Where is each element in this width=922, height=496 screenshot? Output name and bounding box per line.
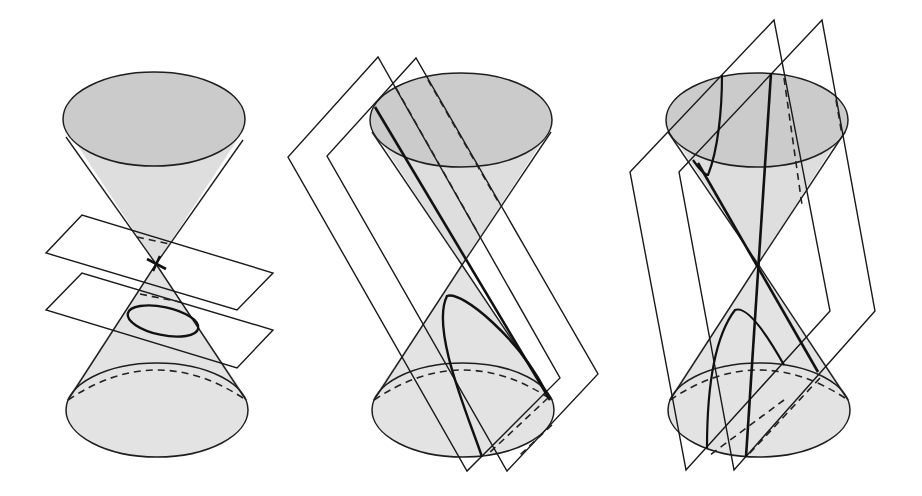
upper-base bbox=[666, 73, 848, 167]
conic-sections-figure bbox=[0, 0, 922, 496]
upper-base bbox=[370, 73, 552, 167]
panel-right-hyperbola bbox=[630, 20, 875, 470]
upper-base bbox=[63, 72, 245, 166]
lower-base bbox=[372, 363, 554, 457]
lower-base bbox=[66, 363, 248, 457]
panel-middle-parabola bbox=[288, 57, 598, 471]
panel-left-point-ellipse bbox=[46, 72, 273, 457]
